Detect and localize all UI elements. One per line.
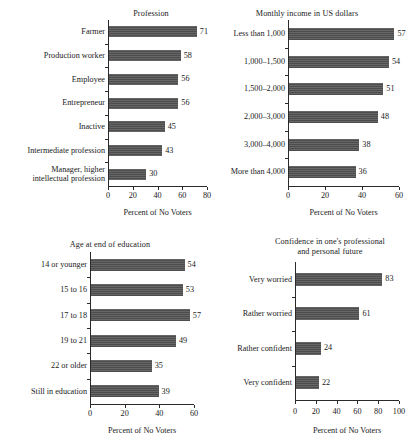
bar: [109, 169, 146, 180]
category-label: More than 4,000: [195, 167, 285, 176]
bar-value-label: 45: [168, 122, 176, 131]
bar: [296, 273, 382, 286]
bar-value-label: 56: [181, 98, 189, 107]
bar: [91, 360, 152, 372]
x-axis-tick: [90, 405, 91, 408]
bar-value-label: 38: [362, 140, 370, 149]
x-axis-tick: [125, 405, 126, 408]
bar-value-label: 61: [362, 309, 370, 318]
x-axis-tick: [158, 187, 159, 190]
bar: [296, 307, 359, 320]
y-axis-tick: [105, 162, 108, 163]
chart-title: Profession: [96, 9, 206, 19]
bar-value-label: 24: [324, 343, 332, 352]
category-label: Entrepreneur: [5, 98, 105, 107]
category-label: Less than 1,000: [195, 29, 285, 38]
bar-value-label: 43: [165, 146, 173, 155]
y-axis-tick: [105, 115, 108, 116]
category-label: Farmer: [5, 27, 105, 36]
bar-value-label: 36: [359, 167, 367, 176]
y-axis-tick: [87, 277, 90, 278]
bar-value-label: 56: [181, 74, 189, 83]
bar-value-label: 48: [381, 112, 389, 121]
x-axis-line: [295, 400, 399, 401]
category-label: 2,000–3,000: [195, 112, 285, 121]
x-axis-tick-label: 40: [145, 409, 173, 418]
y-axis-tick: [285, 103, 288, 104]
y-axis-tick: [87, 353, 90, 354]
y-axis-tick: [285, 158, 288, 159]
x-axis-title: Percent of No Voters: [90, 426, 194, 435]
category-label: 22 or older: [0, 361, 87, 370]
x-axis-tick: [207, 187, 208, 190]
bar: [289, 139, 359, 151]
bar: [289, 28, 394, 40]
bar-value-label: 57: [397, 29, 405, 38]
category-label: 1,000–1,500: [195, 57, 285, 66]
bar-value-label: 22: [322, 378, 330, 387]
bar: [289, 56, 389, 68]
y-axis-tick: [292, 366, 295, 367]
category-label: 17 to 18: [0, 311, 87, 320]
category-label: Production worker: [5, 51, 105, 60]
bar: [91, 309, 190, 321]
bar: [109, 98, 178, 109]
x-axis-line: [90, 404, 194, 405]
category-label: Rather worried: [202, 309, 292, 318]
x-axis-tick-label: 0: [76, 409, 104, 418]
y-axis-line: [288, 20, 289, 186]
y-axis-tick: [105, 67, 108, 68]
chart-title: Monthly income in US dollars: [232, 9, 382, 19]
category-label: Still in education: [0, 387, 87, 396]
bar-value-label: 35: [155, 361, 163, 370]
x-axis-tick: [159, 405, 160, 408]
bar: [91, 335, 176, 347]
x-axis-tick-label: 60: [180, 409, 208, 418]
x-axis-tick: [288, 187, 289, 190]
x-axis-tick: [325, 187, 326, 190]
bar: [109, 50, 181, 61]
bar: [109, 74, 178, 85]
y-axis-tick: [292, 331, 295, 332]
chart-title: Confidence in one's professional and per…: [255, 237, 405, 257]
bar: [109, 145, 162, 156]
x-axis-tick-label: 20: [111, 409, 139, 418]
x-axis-tick: [182, 187, 183, 190]
category-label: Very confident: [202, 378, 292, 387]
y-axis-tick: [285, 131, 288, 132]
category-label: Rather confident: [202, 344, 292, 353]
bar: [91, 259, 185, 271]
category-label: 19 to 21: [0, 336, 87, 345]
bar: [289, 111, 378, 123]
x-axis-line: [288, 186, 399, 187]
bar-value-label: 39: [162, 387, 170, 396]
x-axis-tick: [108, 187, 109, 190]
category-label: Intermediate profession: [5, 146, 105, 155]
y-axis-tick: [105, 91, 108, 92]
bar-value-label: 53: [186, 285, 194, 294]
y-axis-tick: [285, 48, 288, 49]
x-axis-tick-label: 0: [274, 191, 302, 200]
category-label: 15 to 16: [0, 285, 87, 294]
bar: [296, 342, 321, 355]
x-axis-tick: [194, 405, 195, 408]
bar-value-label: 83: [385, 274, 393, 283]
x-axis-title: Percent of No Voters: [108, 208, 207, 217]
figure-root: Profession71Farmer58Production worker56E…: [0, 0, 414, 448]
category-label: Inactive: [5, 122, 105, 131]
chart-title: Age at end of education: [35, 240, 185, 250]
bar: [296, 376, 319, 389]
bar-value-label: 49: [179, 336, 187, 345]
y-axis-tick: [87, 303, 90, 304]
category-label: 3,000–4,000: [195, 140, 285, 149]
bar-value-label: 58: [184, 51, 192, 60]
y-axis-tick: [87, 379, 90, 380]
x-axis-tick: [399, 401, 400, 404]
bar-value-label: 54: [188, 260, 196, 269]
x-axis-tick-label: 40: [348, 191, 376, 200]
x-axis-tick: [362, 187, 363, 190]
bar: [91, 385, 159, 397]
x-axis-tick-label: 60: [385, 191, 413, 200]
bar: [289, 166, 356, 178]
bar: [91, 284, 183, 296]
